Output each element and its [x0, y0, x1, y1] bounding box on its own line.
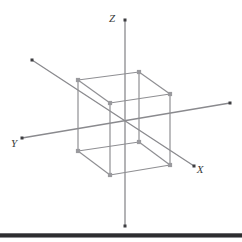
axis-endpoint-marker: [124, 225, 127, 228]
cube-vertex-marker: [168, 163, 172, 167]
cube-edge: [78, 151, 110, 175]
y-axis: [22, 103, 230, 138]
cube-vertex-marker: [137, 140, 141, 144]
axis-label-x: X: [196, 163, 205, 175]
cube-edge: [110, 165, 170, 175]
cube-edge: [78, 72, 139, 80]
axis-endpoint-marker: [31, 59, 34, 62]
cube-edge: [78, 142, 139, 151]
coordinate-system-diagram: ZYX: [0, 0, 242, 242]
cube-edges-group: [78, 72, 170, 175]
axis-label-y: Y: [11, 137, 19, 149]
cube-vertex-marker: [76, 149, 80, 153]
axis-endpoint-markers: [21, 19, 232, 228]
cube-edge: [139, 142, 170, 165]
axes-group: [22, 20, 230, 226]
cube-edge: [110, 94, 170, 103]
axis-endpoint-marker: [229, 102, 232, 105]
axis-label-z: Z: [109, 12, 116, 24]
cube-edge: [139, 72, 170, 94]
cube-edge: [78, 80, 110, 103]
axis-labels-group: ZYX: [11, 12, 205, 175]
cube-vertex-marker: [168, 92, 172, 96]
axis-endpoint-marker: [193, 165, 196, 168]
bottom-divider: [0, 233, 242, 238]
figure-canvas: ZYX: [0, 0, 242, 242]
cube-vertex-marker: [108, 101, 112, 105]
cube-vertex-marker: [76, 78, 80, 82]
cube-vertex-marker: [108, 173, 112, 177]
axis-endpoint-marker: [124, 19, 127, 22]
cube-vertex-marker: [137, 70, 141, 74]
axis-endpoint-marker: [21, 137, 24, 140]
